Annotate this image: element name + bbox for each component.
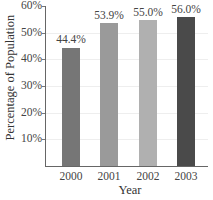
value-label: 53.9% — [89, 9, 129, 21]
bar-2003 — [177, 17, 195, 166]
y-tick-label: 30% — [21, 79, 42, 91]
y-axis-label: Percentage of Population — [3, 26, 17, 141]
value-label: 55.0% — [128, 6, 168, 18]
y-axis — [45, 6, 46, 166]
bar-2001 — [100, 23, 118, 166]
x-axis-label: Year — [105, 183, 155, 198]
value-label: 56.0% — [166, 3, 206, 15]
y-tick-label: 40% — [21, 52, 42, 64]
x-tick-label: 2002 — [128, 170, 168, 182]
y-tick-label: 10% — [21, 132, 42, 144]
bar-2000 — [62, 48, 80, 166]
x-tick-label: 2000 — [51, 170, 91, 182]
x-axis — [45, 166, 208, 167]
value-label: 44.4% — [51, 33, 91, 45]
y-tick-label: 60% — [21, 0, 42, 11]
bar-2002 — [139, 20, 157, 166]
x-tick-label: 2001 — [89, 170, 129, 182]
x-tick-label: 2003 — [166, 170, 206, 182]
y-tick-label: 50% — [21, 26, 42, 38]
y-tick-label: 20% — [21, 106, 42, 118]
bar-chart: Percentage of Population 10% 20% 30% 40%… — [0, 0, 213, 200]
